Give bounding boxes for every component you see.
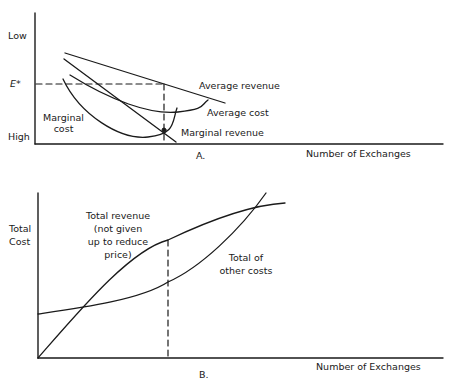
panel-b-y-axis-label-line-2: Cost bbox=[9, 235, 31, 248]
average-cost-curve bbox=[70, 75, 208, 112]
total-revenue-label-line-3: up to reduce bbox=[82, 235, 154, 248]
total-revenue-label-line-4: price) bbox=[82, 248, 154, 261]
panel-a-x-axis-label: Number of Exchanges bbox=[306, 148, 411, 159]
total-other-costs-label-line-1: Total of bbox=[218, 251, 274, 264]
mr-mc-intersection-point bbox=[162, 128, 166, 132]
marginal-revenue-label: Marginal revenue bbox=[181, 127, 264, 138]
total-revenue-label-line-1: Total revenue bbox=[82, 209, 154, 222]
total-revenue-curve bbox=[38, 203, 285, 358]
marginal-cost-label: Marginal cost bbox=[41, 112, 86, 134]
total-other-costs-label-line-2: other costs bbox=[218, 264, 274, 277]
total-revenue-label: Total revenue (not given up to reduce pr… bbox=[82, 209, 154, 261]
total-other-costs-label: Total of other costs bbox=[218, 251, 274, 277]
diagram-canvas bbox=[0, 0, 453, 388]
panel-b-x-axis-label: Number of Exchanges bbox=[316, 361, 421, 372]
average-revenue-label: Average revenue bbox=[199, 80, 280, 91]
y-label-low: Low bbox=[8, 30, 27, 41]
y-label-e-star: E* bbox=[10, 78, 21, 89]
marginal-cost-label-line-2: cost bbox=[41, 123, 86, 134]
marginal-cost-label-line-1: Marginal bbox=[41, 112, 86, 123]
panel-b-label: B. bbox=[199, 369, 209, 380]
panel-b-y-axis-label-line-1: Total bbox=[9, 222, 31, 235]
panel-a-label: A. bbox=[196, 150, 205, 161]
total-revenue-label-line-2: (not given bbox=[82, 222, 154, 235]
average-cost-label: Average cost bbox=[207, 107, 269, 118]
panel-b-y-axis-label: Total Cost bbox=[9, 222, 31, 248]
y-label-high: High bbox=[8, 131, 30, 142]
